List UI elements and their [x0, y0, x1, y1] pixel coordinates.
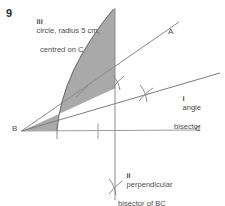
angle-bisector-annotation-line2: bisector: [174, 122, 201, 132]
perpendicular-bisector-annotation: ii perpendicular bisector of BC: [118, 161, 172, 206]
perpendicular-bisector-annotation-line1: perpendicular: [126, 180, 172, 189]
perpendicular-bisector-annotation-line2: bisector of BC: [118, 199, 172, 206]
circle-annotation-line2: centred on C: [28, 45, 100, 55]
circle-annotation: iii circle, radius 5 cm, centred on C: [28, 7, 100, 74]
point-label-b: B: [12, 124, 17, 133]
circle-annotation-roman: iii: [36, 17, 42, 26]
angle-bisector-annotation: i angle bisector: [174, 84, 201, 151]
perpendicular-bisector-annotation-roman: ii: [126, 171, 130, 180]
angle-bisector-annotation-line1: angle: [182, 103, 201, 112]
angle-bisector-annotation-roman: i: [182, 94, 184, 103]
point-label-a: A: [168, 27, 173, 36]
question-number: 9: [6, 7, 12, 19]
geometry-diagram-figure: 9 iii circle, radius 5 cm, centred on C …: [0, 0, 225, 206]
circle-annotation-line1: circle, radius 5 cm,: [36, 26, 99, 35]
